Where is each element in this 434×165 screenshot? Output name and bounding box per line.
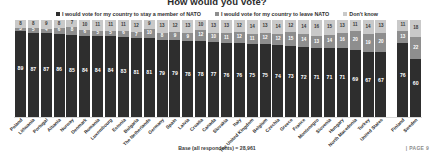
bar-value-stay: 69	[350, 77, 361, 82]
bar-segment-stay: 73	[285, 46, 296, 117]
bar-value-stay: 74	[272, 74, 283, 79]
bar-segment-stay: 69	[350, 50, 361, 117]
bar-column[interactable]: 131077	[207, 20, 220, 117]
bar-column[interactable]: 131275	[259, 20, 272, 117]
bar-column[interactable]: 8587	[27, 20, 40, 117]
bar-column[interactable]: 91081	[143, 20, 156, 117]
bar-value-stay: 81	[131, 70, 142, 75]
bar-segment-dont-know: 15	[324, 20, 335, 35]
bar-segment-dont-know: 12	[131, 20, 142, 32]
bar-segment-leave: 8	[157, 33, 168, 41]
bar-segment-stay: 84	[105, 36, 116, 117]
bar-column[interactable]: 13879	[156, 20, 169, 117]
bar-segment-stay: 87	[41, 33, 52, 117]
bar-segment-stay: 87	[28, 33, 39, 117]
bar-column[interactable]: 141472	[297, 20, 310, 117]
legend-item-stay: I would vote for my country to stay a me…	[56, 11, 201, 17]
bar-column[interactable]: 9487	[40, 20, 53, 117]
bar-segment-stay: 71	[311, 48, 322, 117]
bar-column[interactable]: 12979	[169, 20, 182, 117]
bar-column[interactable]: 141967	[362, 20, 375, 117]
bar-value-stay: 60	[410, 82, 421, 87]
bar-segment-leave: 9	[182, 33, 193, 42]
bar-column[interactable]: 121276	[233, 20, 246, 117]
bar-column[interactable]: 111376	[396, 20, 409, 117]
bar-segment-stay: 77	[208, 42, 219, 117]
bar-segment-dont-know: 8	[28, 20, 39, 28]
bar-segment-leave: 12	[234, 32, 245, 44]
bar-column[interactable]: 13978	[181, 20, 194, 117]
bar-segment-dont-know: 13	[208, 20, 219, 33]
legend-label-dont-know: Don't know	[349, 11, 378, 17]
bar-value-stay: 76	[221, 73, 232, 78]
bar-segment-dont-know: 11	[397, 20, 408, 31]
bar-column[interactable]: 8389	[14, 20, 27, 117]
bar-segment-stay: 76	[221, 43, 232, 117]
legend-label-leave: I would vote for my country to leave NAT…	[221, 11, 329, 17]
bar-column[interactable]: 11584	[91, 20, 104, 117]
bar-column[interactable]: 141175	[246, 20, 259, 117]
bar-segment-stay: 84	[92, 36, 103, 117]
bar-segment-stay: 79	[157, 40, 168, 117]
page-title: How would you vote?	[0, 0, 434, 7]
bar-segment-leave: 10	[208, 33, 219, 43]
bar-value-stay: 79	[157, 71, 168, 76]
bar-segment-dont-know: 13	[260, 20, 271, 33]
bar-column[interactable]: 182260	[409, 20, 422, 117]
bar-segment-dont-know: 13	[375, 20, 386, 33]
bar-segment-dont-know: 8	[15, 20, 26, 28]
bar-segment-leave: 13	[311, 36, 322, 49]
bar-segment-leave: 13	[397, 31, 408, 44]
bar-column[interactable]: 131176	[220, 20, 233, 117]
category-label: Sweden	[409, 118, 422, 162]
bar-value-stay: 75	[260, 74, 271, 79]
bar-segment-leave: 12	[260, 33, 271, 45]
bar-segment-leave: 12	[195, 30, 206, 42]
legend-swatch-dont-know	[343, 12, 347, 16]
page-number: | PAGE 9	[406, 145, 429, 151]
bar-value-stay: 67	[363, 78, 374, 83]
bar-column[interactable]: 141274	[272, 20, 285, 117]
bar-value-stay: 89	[15, 66, 26, 71]
bar-column[interactable]: 11584	[104, 20, 117, 117]
legend-label-stay: I would vote for my country to stay a me…	[62, 11, 201, 17]
bar-value-stay: 72	[298, 75, 309, 80]
bar-value-stay: 87	[41, 67, 52, 72]
base-note: Base (all respondents) = 28,961	[0, 145, 434, 151]
bar-column[interactable]: 11683	[117, 20, 130, 117]
bar-column[interactable]: 121573	[284, 20, 297, 117]
bar-value-stay: 71	[311, 76, 322, 81]
bar-column[interactable]: 161371	[310, 20, 323, 117]
bar-value-stay: 79	[169, 71, 180, 76]
bar-segment-stay: 75	[247, 44, 258, 117]
bar-segment-dont-know: 11	[350, 20, 361, 31]
bar-value-stay: 71	[337, 76, 348, 81]
category-label: United States	[375, 118, 388, 162]
bar-column[interactable]: 132067	[375, 20, 388, 117]
legend-item-leave: I would vote for my country to leave NAT…	[215, 11, 329, 17]
bar-segment-dont-know: 11	[105, 20, 116, 31]
bar-column[interactable]: 112069	[349, 20, 362, 117]
bar-segment-leave: 16	[337, 33, 348, 49]
bar-segment-leave: 7	[131, 32, 142, 39]
chart-plot-area: 8389858794878686788510684115841158411683…	[14, 20, 422, 117]
bar-column[interactable]: 7885	[66, 20, 79, 117]
bar-segment-stay: 67	[363, 52, 374, 117]
bar-segment-stay: 76	[234, 43, 245, 117]
bar-segment-leave: 19	[363, 34, 374, 52]
bar-segment-leave: 8	[66, 27, 77, 35]
bar-segment-stay: 81	[144, 38, 155, 117]
bar-column[interactable]: 101278	[194, 20, 207, 117]
bar-segment-stay: 85	[66, 35, 77, 117]
bar-segment-stay: 78	[195, 41, 206, 117]
bar-column[interactable]: 151471	[323, 20, 336, 117]
bar-column[interactable]: 8686	[53, 20, 66, 117]
bar-column[interactable]: 10684	[78, 20, 91, 117]
legend-item-dont-know: Don't know	[343, 11, 378, 17]
bar-segment-leave: 14	[298, 34, 309, 48]
bar-column[interactable]: 12781	[130, 20, 143, 117]
bar-column[interactable]: 131671	[336, 20, 349, 117]
bar-segment-dont-know: 8	[54, 20, 65, 28]
bar-segment-dont-know: 12	[285, 20, 296, 32]
bar-segment-stay: 78	[182, 41, 193, 117]
